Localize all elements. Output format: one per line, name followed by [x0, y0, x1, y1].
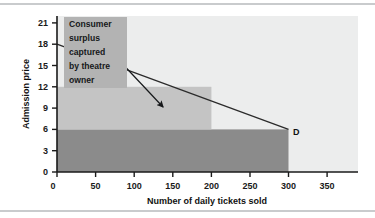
x-tick-label-50: 50: [91, 181, 101, 191]
y-tick-label-0: 0: [43, 167, 48, 177]
annotation-line-4: by theatre: [69, 61, 110, 71]
y-tick-label-12: 12: [38, 82, 48, 92]
x-tick-label-0: 0: [50, 181, 55, 191]
y-tick-label-6: 6: [43, 124, 48, 134]
region-producer-revenue: [57, 129, 289, 172]
x-tick-label-150: 150: [165, 181, 180, 191]
x-tick-label-100: 100: [127, 181, 142, 191]
y-tick-label-9: 9: [43, 103, 48, 113]
annotation-line-3: captured: [69, 47, 105, 57]
chart-figure: D Consumer surplus captured by theatre o…: [0, 0, 375, 218]
x-tick-label-350: 350: [320, 181, 335, 191]
demand-curve-label: D: [293, 127, 300, 137]
x-tick-label-300: 300: [281, 181, 296, 191]
x-tick-label-200: 200: [204, 181, 219, 191]
annotation-line-5: owner: [69, 75, 95, 85]
x-tick-label-250: 250: [242, 181, 257, 191]
y-axis-title: Admission price: [21, 59, 31, 129]
y-tick-label-15: 15: [38, 61, 48, 71]
annotation-line-1: Consumer: [69, 19, 112, 29]
y-tick-label-18: 18: [38, 39, 48, 49]
x-axis-title: Number of daily tickets sold: [147, 196, 267, 206]
annotation-line-2: surplus: [69, 33, 100, 43]
y-tick-label-3: 3: [43, 146, 48, 156]
y-tick-label-21: 21: [38, 18, 48, 28]
consumer-surplus-chart: D Consumer surplus captured by theatre o…: [0, 0, 375, 218]
